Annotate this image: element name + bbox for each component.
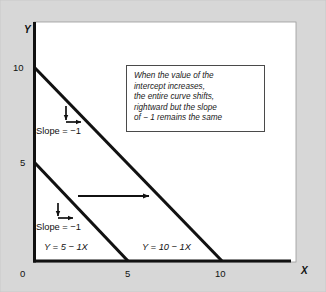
y-axis-label: Y	[24, 24, 31, 35]
callout-textbox: When the value of the intercept increase…	[126, 65, 265, 132]
y-tick-5: 5	[20, 157, 25, 168]
callout-line-4: rightward but the slope	[134, 103, 258, 114]
callout-line-1: When the value of the	[134, 71, 258, 82]
equation-label-right: Y = 10 − 1X	[142, 242, 191, 252]
equation-label-left: Y = 5 − 1X	[44, 242, 88, 252]
callout-line-2: intercept increases,	[134, 82, 258, 93]
figure-container: When the value of the intercept increase…	[0, 0, 326, 292]
callout-line-5: of − 1 remains the same	[134, 113, 258, 124]
slope-label-lower: Slope = −1	[36, 222, 81, 232]
x-axis-label: X	[301, 265, 308, 276]
origin-tick-0: 0	[20, 268, 25, 279]
x-tick-5: 5	[125, 268, 130, 279]
chart-stage: When the value of the intercept increase…	[0, 0, 326, 292]
slope-label-upper: Slope = −1	[36, 126, 81, 136]
callout-line-3: the entire curve shifts,	[134, 92, 258, 103]
x-tick-10: 10	[215, 268, 226, 279]
y-tick-10: 10	[13, 62, 24, 73]
